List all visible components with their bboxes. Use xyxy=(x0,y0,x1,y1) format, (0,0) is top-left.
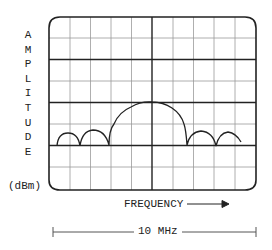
spectrum-display xyxy=(0,0,272,250)
span-label: 10 MHz xyxy=(134,225,182,237)
major-grid xyxy=(49,17,256,190)
frequency-axis-label: FREQUENCY xyxy=(124,198,183,210)
frequency-arrow xyxy=(187,201,229,208)
